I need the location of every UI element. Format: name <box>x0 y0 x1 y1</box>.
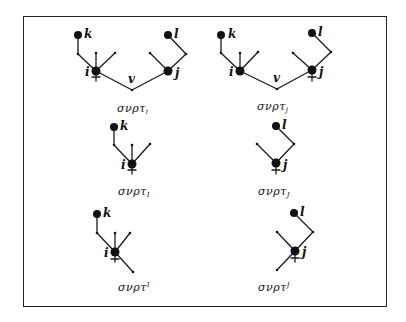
label-l: l <box>300 206 305 218</box>
label-v: v <box>273 72 280 84</box>
node-l <box>164 31 172 39</box>
node-k <box>93 210 101 218</box>
label-l: l <box>318 26 323 38</box>
label-l: l <box>174 28 179 40</box>
label-j: j <box>175 67 179 79</box>
caption-middle-left: σνρτI <box>118 186 150 199</box>
label-v: v <box>128 73 135 85</box>
node-i <box>111 248 120 257</box>
tree-panel-middle-left <box>110 123 151 174</box>
node-j <box>308 66 317 75</box>
label-i: i <box>121 159 126 171</box>
node-k <box>74 31 82 39</box>
caption-top-right: σνρτj <box>257 101 288 114</box>
node-j <box>291 247 300 256</box>
label-i: i <box>85 66 90 78</box>
label-k: k <box>103 207 111 219</box>
node-j <box>164 67 173 76</box>
label-k: k <box>120 120 128 132</box>
label-j: j <box>319 66 323 78</box>
caption-top-left: σνρτi <box>117 103 149 116</box>
label-k: k <box>84 28 92 40</box>
node-i <box>128 160 137 169</box>
label-l: l <box>282 119 287 131</box>
label-i: i <box>229 66 234 78</box>
caption-bottom-right: σνρτJ <box>258 282 290 293</box>
node-l <box>308 29 316 37</box>
label-k: k <box>228 28 236 40</box>
node-i <box>236 67 245 76</box>
label-j: j <box>283 159 287 171</box>
node-k <box>217 31 225 39</box>
node-i <box>92 67 101 76</box>
tree-panel-bottom-left <box>93 210 134 273</box>
label-j: j <box>302 246 306 258</box>
tree-diagrams <box>0 0 406 322</box>
node-j <box>272 159 281 168</box>
label-i: i <box>104 247 109 259</box>
tree-panel-middle-right <box>256 122 296 174</box>
tree-panel-bottom-right <box>276 209 315 271</box>
caption-bottom-left: σνρτI <box>118 282 150 293</box>
node-l <box>290 209 298 217</box>
node-l <box>272 122 280 130</box>
node-k <box>110 123 118 131</box>
caption-middle-right: σνρτJ <box>258 186 290 199</box>
